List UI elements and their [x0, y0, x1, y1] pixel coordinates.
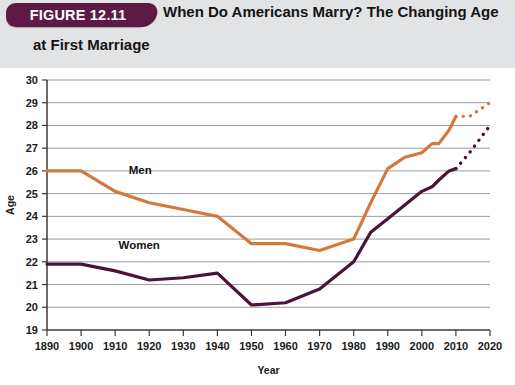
series-line-men-projected	[456, 103, 490, 117]
x-tick-label: 2000	[410, 340, 434, 352]
y-tick-label: 19	[26, 324, 38, 336]
y-tick-label: 20	[26, 301, 38, 313]
chart-gridlines	[47, 80, 490, 307]
figure-header: FIGURE 12.11 When Do Americans Marry? Th…	[0, 0, 515, 68]
chart-container: 192021222324252627282930 189019001910192…	[0, 68, 515, 385]
x-tick-label: 1990	[376, 340, 400, 352]
y-tick-label: 22	[26, 256, 38, 268]
y-tick-label: 28	[26, 119, 38, 131]
y-tick-label: 23	[26, 233, 38, 245]
x-axis-tick-labels: 1890190019101920193019401950196019701980…	[35, 340, 502, 352]
x-tick-label: 1890	[35, 340, 59, 352]
y-tick-label: 27	[26, 142, 38, 154]
x-tick-label: 1920	[137, 340, 161, 352]
x-tick-label: 1970	[307, 340, 331, 352]
figure-title-line-2: at First Marriage	[33, 37, 503, 52]
x-axis-ticks	[47, 330, 490, 336]
x-tick-label: 1950	[239, 340, 263, 352]
x-tick-label: 1940	[205, 340, 229, 352]
line-chart: 192021222324252627282930 189019001910192…	[0, 68, 515, 385]
y-axis-title: Age	[4, 195, 16, 215]
y-tick-label: 30	[26, 74, 38, 86]
figure-root: FIGURE 12.11 When Do Americans Marry? Th…	[0, 0, 515, 385]
x-tick-label: 2010	[444, 340, 468, 352]
x-tick-label: 1930	[171, 340, 195, 352]
x-tick-label: 1980	[341, 340, 365, 352]
y-tick-label: 24	[26, 210, 39, 222]
x-tick-label: 1960	[273, 340, 297, 352]
y-tick-label: 25	[26, 188, 38, 200]
y-axis-tick-labels: 192021222324252627282930	[26, 74, 39, 336]
series-line-men	[47, 116, 456, 250]
x-tick-label: 2020	[478, 340, 502, 352]
y-tick-label: 29	[26, 97, 38, 109]
y-tick-label: 21	[26, 279, 38, 291]
figure-title-line-1: When Do Americans Marry? The Changing Ag…	[163, 4, 508, 19]
x-tick-label: 1910	[103, 340, 127, 352]
series-line-women-projected	[456, 125, 490, 168]
series-label-women: Women	[119, 239, 160, 251]
chart-series	[47, 103, 490, 305]
x-tick-label: 1900	[69, 340, 93, 352]
series-label-men: Men	[129, 164, 152, 176]
x-axis-title: Year	[257, 364, 279, 376]
y-tick-label: 26	[26, 165, 38, 177]
figure-number-badge: FIGURE 12.11	[6, 3, 150, 27]
